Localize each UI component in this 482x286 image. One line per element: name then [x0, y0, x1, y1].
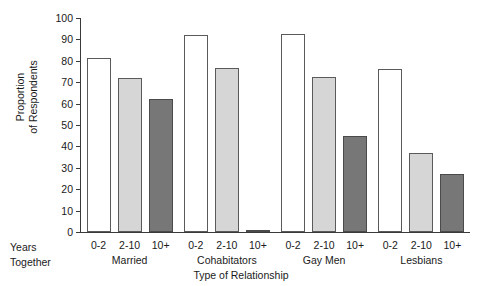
y-tick-mark [76, 61, 81, 62]
y-tick-mark [76, 189, 81, 190]
y-tick-mark [76, 146, 81, 147]
y-tick-label: 40 [61, 141, 73, 152]
y-tick-mark [76, 104, 81, 105]
bar [184, 35, 208, 232]
x-subcategory-label: 0-2 [91, 240, 106, 251]
y-tick-label: 90 [61, 34, 73, 45]
bar [312, 77, 336, 232]
x-subcategory-label: 2-10 [119, 240, 140, 251]
y-tick-label: 0 [67, 227, 73, 238]
bar-chart: Proportion of Respondents Years Together… [0, 0, 482, 286]
x-axis-title: Type of Relationship [0, 270, 482, 281]
y-tick-mark [76, 232, 81, 233]
x-subcategory-label: 10+ [443, 240, 461, 251]
x-subcategory-label: 10+ [346, 240, 364, 251]
y-tick-mark [76, 39, 81, 40]
x-subcategory-label: 0-2 [383, 240, 398, 251]
y-tick-mark [76, 211, 81, 212]
y-tick-label: 70 [61, 77, 73, 88]
y-tick-mark [76, 168, 81, 169]
bar [378, 69, 402, 232]
y-tick-mark [76, 125, 81, 126]
x-group-label: Cohabitators [197, 255, 257, 266]
y-tick-label: 60 [61, 98, 73, 109]
y-tick-label: 80 [61, 56, 73, 67]
y-tick-label: 20 [61, 184, 73, 195]
x-subcategory-label: 10+ [249, 240, 267, 251]
x-subcategory-label: 10+ [152, 240, 170, 251]
y-tick-mark [76, 18, 81, 19]
x-group-label: Married [112, 255, 148, 266]
bar [281, 34, 305, 232]
x-subcategory-label: 2-10 [216, 240, 237, 251]
x-group-label: Gay Men [303, 255, 346, 266]
y-axis-title: Proportion of Respondents [14, 32, 40, 162]
x-subcategory-label: 0-2 [286, 240, 301, 251]
y-tick-label: 30 [61, 163, 73, 174]
x-subcategory-label: 2-10 [314, 240, 335, 251]
plot-area: 0102030405060708090100 [81, 18, 470, 232]
bar [87, 58, 111, 232]
years-together-label: Years Together [10, 240, 51, 270]
y-tick-mark [76, 82, 81, 83]
x-group-label: Lesbians [400, 255, 442, 266]
bar [118, 78, 142, 232]
y-tick-label: 10 [61, 205, 73, 216]
y-tick-label: 50 [61, 120, 73, 131]
x-axis-line [80, 232, 470, 233]
x-subcategory-label: 0-2 [188, 240, 203, 251]
bar [149, 99, 173, 232]
x-subcategory-label: 2-10 [411, 240, 432, 251]
bar [246, 230, 270, 232]
bar [215, 68, 239, 232]
bar [343, 136, 367, 232]
bar [409, 153, 433, 232]
y-tick-label: 100 [55, 13, 73, 24]
bar [440, 174, 464, 232]
